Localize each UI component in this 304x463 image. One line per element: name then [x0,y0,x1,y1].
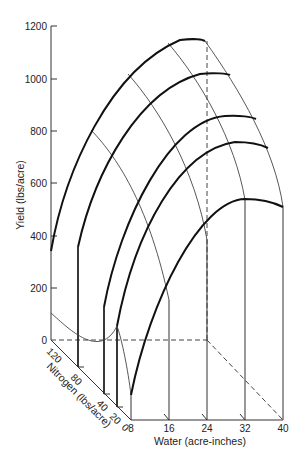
svg-text:1000: 1000 [25,74,48,85]
floor-dashed-lines [51,41,283,420]
y-axis [51,26,57,340]
curve-nitrogen-120 [51,39,205,251]
svg-text:40: 40 [277,423,289,434]
svg-text:200: 200 [30,283,47,294]
svg-text:16: 16 [163,423,175,434]
y-axis-title: Yield (lbs/acre) [14,160,26,230]
y-tick-labels: 1200 1000 800 600 400 200 0 [25,21,48,346]
yield-surface-chart: 1200 1000 800 600 400 200 0 Yield (lbs/a… [0,0,304,463]
water-tick-labels: 8 16 24 32 40 [128,423,289,434]
svg-text:400: 400 [30,231,47,242]
nitrogen-tick-labels: 120 80 40 20 0 [45,346,132,434]
svg-text:32: 32 [239,423,251,434]
svg-text:0: 0 [41,335,47,346]
svg-text:1200: 1200 [25,21,48,32]
svg-text:8: 8 [128,423,134,434]
curve-nitrogen-40 [104,116,256,307]
svg-text:800: 800 [30,126,47,137]
surface-nitrogen-curves [51,39,283,395]
surface-verticals-bold [78,247,117,407]
svg-text:600: 600 [30,178,47,189]
water-axis-title: Water (acre-inches) [154,435,246,447]
svg-text:24: 24 [201,423,213,434]
